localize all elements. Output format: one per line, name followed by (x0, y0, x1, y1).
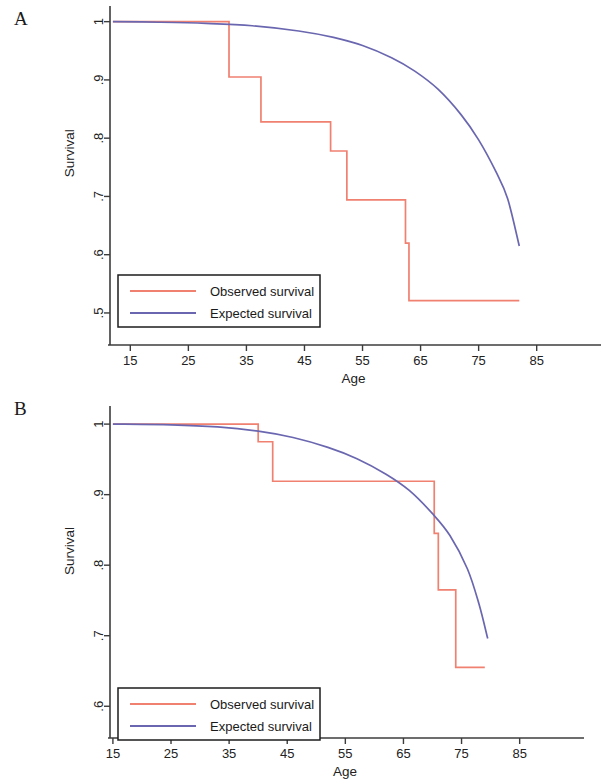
x-tick-label: 65 (396, 746, 410, 761)
series-observed (113, 424, 485, 667)
y-tick-label: 1 (92, 420, 107, 427)
y-tick-label: .5 (92, 308, 107, 319)
x-tick-label: 25 (164, 746, 178, 761)
y-tick-label: .9 (92, 489, 107, 500)
series-expected (113, 424, 488, 638)
series-expected (113, 22, 519, 246)
y-tick-label: .8 (92, 560, 107, 571)
panel-b: B 1.9.8.7.6Survival1525354555657585AgeOb… (0, 390, 602, 780)
x-tick-label: 75 (471, 353, 485, 368)
x-tick-label: 55 (338, 746, 352, 761)
y-tick-label: .6 (92, 249, 107, 260)
y-axis-title: Survival (63, 527, 78, 575)
x-tick-label: 65 (413, 353, 427, 368)
x-axis-title: Age (333, 764, 357, 779)
x-tick-label: 85 (512, 746, 526, 761)
x-tick-label: 75 (454, 746, 468, 761)
x-tick-label: 45 (280, 746, 294, 761)
y-tick-label: 1 (92, 18, 107, 25)
y-tick-label: .7 (92, 191, 107, 202)
panel-a: A 1.9.8.7.6.5Survival1525354555657585Age… (0, 0, 602, 390)
y-tick-label: .7 (92, 630, 107, 641)
y-axis-title: Survival (63, 129, 78, 177)
legend-label: Observed survival (210, 697, 314, 712)
legend-label: Expected survival (210, 719, 312, 734)
x-tick-label: 85 (529, 353, 543, 368)
y-tick-label: .9 (92, 74, 107, 85)
series-observed (113, 22, 519, 301)
y-tick-label: .8 (92, 133, 107, 144)
x-tick-label: 15 (106, 746, 120, 761)
legend-label: Observed survival (210, 284, 314, 299)
x-tick-label: 15 (123, 353, 137, 368)
x-tick-label: 35 (239, 353, 253, 368)
x-tick-label: 55 (355, 353, 369, 368)
x-tick-label: 35 (222, 746, 236, 761)
y-tick-label: .6 (92, 701, 107, 712)
x-tick-label: 25 (181, 353, 195, 368)
legend-label: Expected survival (210, 306, 312, 321)
panel-a-plot: 1.9.8.7.6.5Survival1525354555657585AgeOb… (0, 0, 602, 390)
x-tick-label: 45 (297, 353, 311, 368)
x-axis-title: Age (341, 371, 365, 386)
panel-b-plot: 1.9.8.7.6Survival1525354555657585AgeObse… (0, 390, 602, 780)
